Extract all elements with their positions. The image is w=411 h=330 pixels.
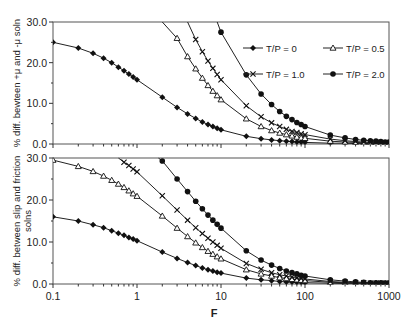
series-t-p-1-0-marker: [193, 37, 198, 42]
legend-label: T/P = 0: [266, 43, 297, 54]
series-t-p-2-0-marker: [185, 189, 191, 195]
series-t-p-1-0-marker: [193, 225, 198, 230]
series-t-p-2-0-marker: [277, 266, 283, 272]
series-t-p-0-marker: [115, 64, 121, 70]
series-t-p-2-0-marker: [277, 109, 283, 115]
series-t-p-2-0-marker: [269, 262, 275, 268]
series-t-p-0-marker: [199, 119, 205, 125]
y-tick-label: 20.0: [27, 194, 48, 206]
y-tick-label: 0.0: [32, 138, 47, 150]
series-t-p-1-0-marker: [244, 103, 249, 108]
series-t-p-2-0-marker: [327, 132, 333, 138]
y-axis-label: % diff. bewteen +μ and -μ soln: [11, 19, 22, 147]
series-t-p-2-0-marker: [258, 257, 264, 263]
series-t-p-1-0-marker: [200, 231, 205, 236]
series-t-p-0: [50, 214, 392, 287]
series-t-p-0-marker: [243, 275, 249, 281]
series-t-p-0-marker: [258, 136, 264, 142]
series-t-p-2-0-marker: [284, 268, 290, 274]
series-t-p-2-0-marker: [269, 102, 275, 108]
series-t-p-2-0-marker: [373, 138, 379, 144]
series-t-p-1-0-marker: [174, 207, 179, 212]
y-tick-label: 10.0: [27, 97, 48, 109]
series-t-p-0-marker: [174, 255, 180, 261]
x-tick-label: 1000: [377, 290, 401, 302]
series-t-p-0-5-marker: [243, 116, 249, 121]
series-t-p-0: [50, 39, 392, 146]
legend-label: T/P = 2.0: [346, 69, 385, 80]
legend: T/P = 0T/P = 0.5T/P = 1.0T/P = 2.0: [243, 43, 385, 80]
legend-marker: [250, 45, 256, 51]
series-t-p-1-0-marker: [160, 193, 165, 198]
series-t-p-1-0-marker: [205, 58, 210, 63]
series-t-p-0-marker: [121, 68, 127, 74]
series-t-p-1-0-marker: [205, 236, 210, 241]
series-t-p-0-marker: [115, 230, 121, 236]
x-tick-label: 0.1: [46, 290, 61, 302]
series-t-p-0-marker: [101, 55, 107, 61]
series-t-p-1-0-marker: [269, 120, 274, 125]
series-t-p-2-0-marker: [327, 277, 333, 283]
series-t-p-2-0-marker: [258, 91, 264, 97]
series-t-p-0-marker: [277, 138, 283, 144]
series-t-p-0-marker: [193, 263, 199, 269]
series-t-p-0-marker: [90, 222, 96, 228]
series-t-p-1-0-marker: [185, 218, 190, 223]
series-t-p-0-5-marker: [121, 184, 127, 189]
y-axis-label: solns: [22, 210, 33, 232]
x-tick-label: 100: [296, 290, 314, 302]
series-t-p-0-marker: [109, 228, 115, 234]
y-tick-label: 10.0: [27, 236, 48, 248]
series-t-p-2-0-marker: [289, 117, 295, 123]
series-t-p-1-0-marker: [215, 243, 220, 248]
series-t-p-1-0-marker: [210, 239, 215, 244]
series-t-p-2-0-marker: [218, 225, 224, 231]
series-t-p-2-0-marker: [200, 206, 206, 212]
series-t-p-0-marker: [101, 225, 107, 231]
series-t-p-0-marker: [243, 133, 249, 139]
series-t-p-0-marker: [90, 50, 96, 56]
y-tick-label: 30.0: [27, 152, 48, 164]
series-t-p-2-0-marker: [284, 114, 290, 120]
series-t-p-2-0-marker: [289, 270, 295, 276]
series-t-p-2-0-marker: [342, 135, 348, 141]
series-t-p-0-marker: [75, 218, 81, 224]
y-tick-label: 20.0: [27, 57, 48, 69]
series-t-p-1-0-marker: [258, 114, 263, 119]
series-t-p-1-0-marker: [121, 160, 126, 165]
series-t-p-1-0-marker: [244, 261, 249, 266]
series-t-p-0-5: [50, 157, 392, 286]
legend-item: T/P = 2.0: [323, 69, 385, 80]
series-t-p-0-marker: [75, 45, 81, 51]
series-t-p-2-0: [158, 158, 391, 286]
series-t-p-2-0-marker: [193, 198, 199, 204]
series-t-p-0-5-marker: [199, 244, 205, 249]
series-t-p-2-0-marker: [361, 138, 367, 144]
series-t-p-1-0-marker: [126, 163, 131, 168]
series-t-p-2-0-marker: [302, 273, 308, 279]
series-t-p-0-marker: [193, 115, 199, 121]
series-t-p-0-marker: [185, 111, 191, 117]
series-t-p-0-marker: [283, 138, 289, 144]
series-t-p-2-0-marker: [361, 280, 367, 286]
series-t-p-1-0-marker: [277, 124, 282, 129]
series-t-p-0-5-marker: [205, 248, 211, 253]
series-t-p-2-0-marker: [353, 279, 359, 285]
series-t-p-1-0-marker: [131, 166, 136, 171]
series-t-p-2-0-marker: [205, 212, 211, 218]
series-t-p-2-0-marker: [243, 248, 249, 254]
series-t-p-0-5-marker: [115, 181, 121, 186]
series-t-p-0-marker: [50, 39, 56, 45]
top-panel: 0.010.020.030.0% diff. bewteen +μ and -μ…: [11, 16, 392, 150]
series-t-p-2-0-marker: [243, 72, 249, 78]
legend-item: T/P = 0: [243, 43, 297, 54]
series-t-p-2-0-marker: [159, 158, 165, 164]
series-t-p-0-marker: [185, 260, 191, 266]
series-t-p-2-0-marker: [302, 124, 308, 130]
legend-label: T/P = 1.0: [266, 69, 305, 80]
series-t-p-2-0-marker: [353, 137, 359, 143]
series-t-p-1-0-marker: [200, 49, 205, 54]
legend-label: T/P = 0.5: [346, 43, 385, 54]
series-t-p-2-0-marker: [386, 139, 392, 145]
legend-marker: [330, 71, 336, 77]
